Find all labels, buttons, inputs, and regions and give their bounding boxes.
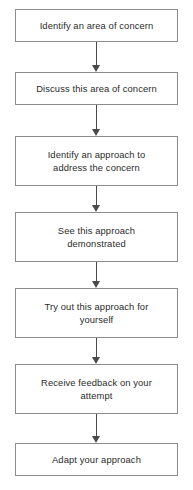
flow-node: Discuss this area of concern <box>15 72 178 105</box>
flow-node: Adapt your approach <box>15 443 178 476</box>
arrow-shaft <box>96 338 97 358</box>
flow-arrow <box>91 186 102 212</box>
flow-arrow <box>91 262 102 288</box>
flow-node: Receive feedback on your attempt <box>15 364 178 414</box>
arrowhead-icon <box>92 281 100 288</box>
arrow-shaft <box>96 414 97 437</box>
arrow-shaft <box>96 186 97 206</box>
arrowhead-icon <box>92 357 100 364</box>
flow-node-label: Identify an approach to address the conc… <box>42 148 152 174</box>
flowchart-diagram: Identify an area of concernDiscuss this … <box>0 0 193 490</box>
arrowhead-icon <box>92 436 100 443</box>
flow-arrow <box>91 338 102 364</box>
arrow-shaft <box>96 262 97 282</box>
arrowhead-icon <box>92 129 100 136</box>
flow-node-label: Receive feedback on your attempt <box>35 376 158 402</box>
flow-node-label: Try out this approach for yourself <box>39 300 155 326</box>
flow-node-label: See this approach demonstrated <box>52 224 141 250</box>
flow-arrow <box>91 42 102 72</box>
flow-node: Identify an approach to address the conc… <box>15 136 178 186</box>
flow-node: Identify an area of concern <box>15 9 178 42</box>
flow-arrow <box>91 105 102 136</box>
arrowhead-icon <box>92 65 100 72</box>
flow-node: Try out this approach for yourself <box>15 288 178 338</box>
arrowhead-icon <box>92 205 100 212</box>
arrow-shaft <box>96 42 97 66</box>
flow-node-label: Discuss this area of concern <box>30 82 163 95</box>
flow-node-label: Identify an area of concern <box>34 19 160 32</box>
flow-arrow <box>91 414 102 443</box>
flow-node-label: Adapt your approach <box>46 453 147 466</box>
arrow-shaft <box>96 105 97 130</box>
flow-node: See this approach demonstrated <box>15 212 178 262</box>
